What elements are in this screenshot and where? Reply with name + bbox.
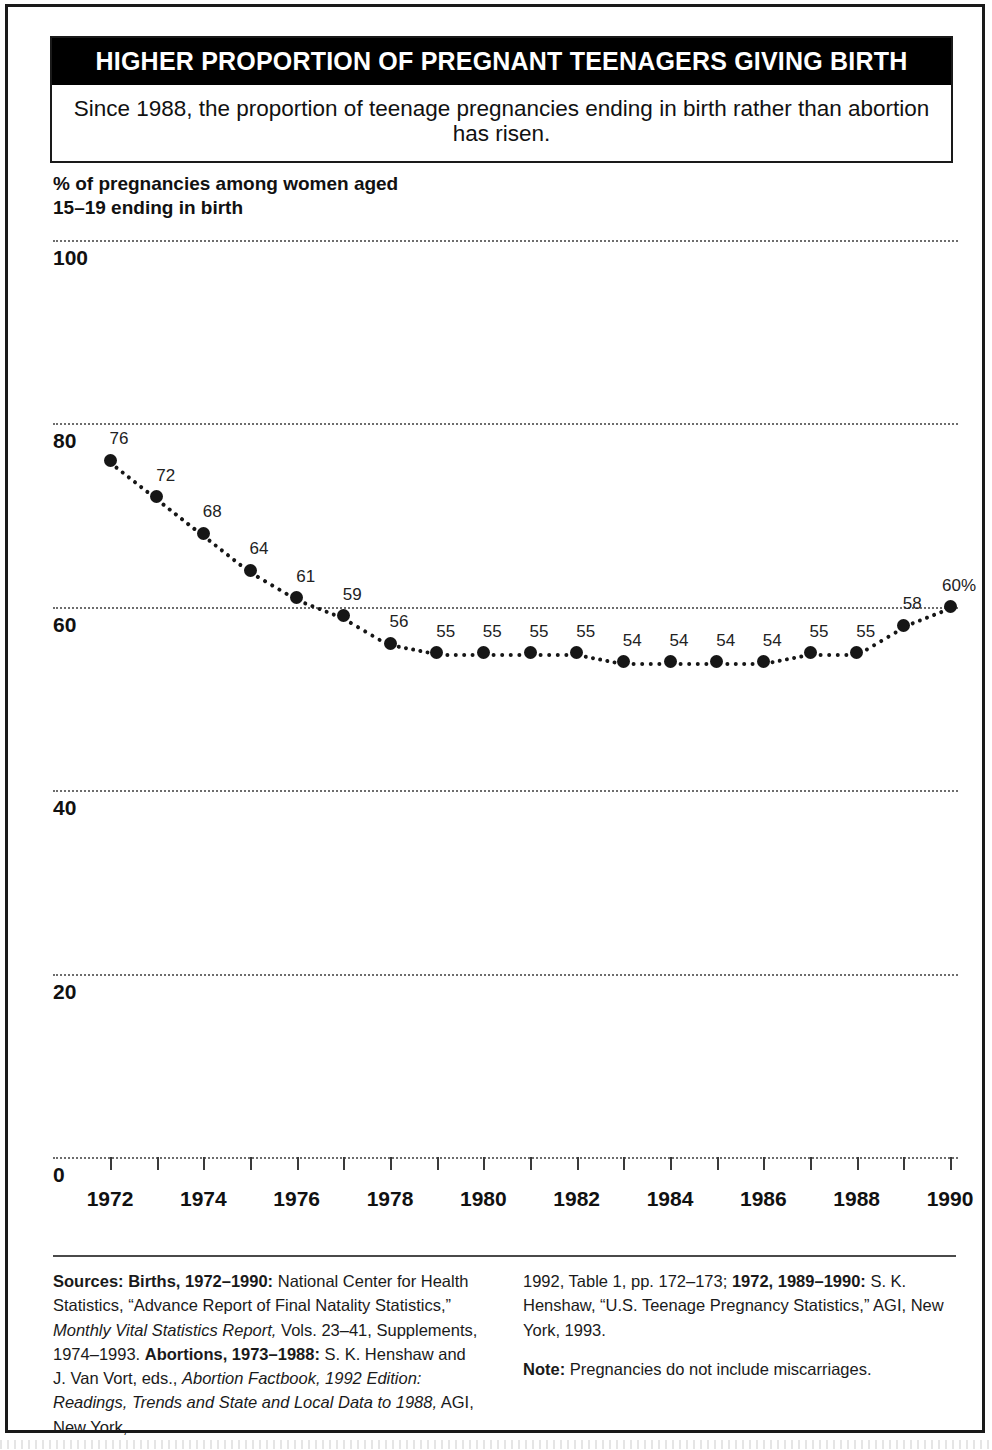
footnote-column-left: Sources: Births, 1972–1990: National Cen… (53, 1269, 483, 1450)
x-axis-tick-label: 1978 (345, 1187, 435, 1211)
data-line-segment (623, 662, 670, 666)
gridline-80 (53, 423, 958, 425)
footnotes: Sources: Births, 1972–1990: National Cen… (53, 1269, 956, 1450)
y-axis-tick-label: 40 (53, 796, 95, 820)
x-axis-tick (950, 1157, 952, 1170)
data-point-marker (197, 527, 210, 540)
x-axis-tick-label: 1986 (718, 1187, 808, 1211)
x-axis-tick (157, 1157, 159, 1170)
x-axis-tick (390, 1157, 392, 1170)
data-point-label: 58 (877, 594, 947, 614)
x-axis-tick-label: 1976 (252, 1187, 342, 1211)
x-axis-tick-label: 1990 (905, 1187, 992, 1211)
sources-note-continued: 1992, Table 1, pp. 172–173; 1972, 1989–1… (523, 1269, 953, 1342)
scan-artifact (0, 1440, 992, 1449)
general-note: Note: Pregnancies do not include miscarr… (523, 1357, 953, 1381)
data-point-marker (104, 454, 117, 467)
figure-title: HIGHER PROPORTION OF PREGNANT TEENAGERS … (52, 38, 951, 85)
data-point-marker (477, 646, 490, 659)
data-point-label: 60% (924, 576, 992, 596)
x-axis-tick-label: 1984 (625, 1187, 715, 1211)
x-axis-tick (577, 1157, 579, 1170)
data-point-marker (710, 655, 723, 668)
y-axis-tick-label: 60 (53, 613, 95, 637)
data-point-label: 64 (224, 539, 294, 559)
data-point-marker (430, 646, 443, 659)
gridline-100 (53, 240, 958, 242)
x-axis-tick-label: 1974 (158, 1187, 248, 1211)
gridline-0 (53, 1157, 958, 1159)
x-axis-tick-label: 1982 (532, 1187, 622, 1211)
chart-plot-area: 1008060402001972197419761978198019821984… (53, 232, 958, 1167)
footnote-column-right: 1992, Table 1, pp. 172–173; 1972, 1989–1… (523, 1269, 953, 1450)
data-line-segment (483, 653, 530, 657)
data-point-label: 61 (271, 567, 341, 587)
x-axis-tick (203, 1157, 205, 1170)
figure-subtitle: Since 1988, the proportion of teenage pr… (52, 85, 951, 161)
data-point-marker (804, 646, 817, 659)
x-axis-tick (717, 1157, 719, 1170)
sources-note: Sources: Births, 1972–1990: National Cen… (53, 1269, 483, 1439)
gridline-40 (53, 790, 958, 792)
x-axis-tick-label: 1980 (438, 1187, 528, 1211)
data-point-marker (524, 646, 537, 659)
x-axis-tick (903, 1157, 905, 1170)
x-axis-tick (250, 1157, 252, 1170)
x-axis-tick (437, 1157, 439, 1170)
data-point-marker (850, 646, 863, 659)
gridline-20 (53, 974, 958, 976)
x-axis-tick-label: 1988 (812, 1187, 902, 1211)
x-axis-tick (670, 1157, 672, 1170)
data-point-marker (664, 655, 677, 668)
data-point-label: 59 (317, 585, 387, 605)
x-axis-tick (530, 1157, 532, 1170)
data-point-label: 68 (177, 502, 247, 522)
x-axis-tick (110, 1157, 112, 1170)
y-axis-caption-line-2: 15–19 ending in birth (53, 196, 653, 220)
title-block: HIGHER PROPORTION OF PREGNANT TEENAGERS … (50, 36, 953, 163)
x-axis-tick (483, 1157, 485, 1170)
data-point-marker (617, 655, 630, 668)
figure-frame: HIGHER PROPORTION OF PREGNANT TEENAGERS … (5, 4, 985, 1433)
data-point-label: 76 (84, 429, 154, 449)
data-point-marker (244, 564, 257, 577)
data-point-marker (897, 619, 910, 632)
y-axis-tick-label: 20 (53, 980, 95, 1004)
x-axis-tick (810, 1157, 812, 1170)
x-axis-tick (343, 1157, 345, 1170)
data-point-marker (944, 600, 957, 613)
x-axis-tick (297, 1157, 299, 1170)
data-point-label: 55 (831, 622, 901, 642)
x-axis-tick (857, 1157, 859, 1170)
y-axis-caption-line-1: % of pregnancies among women aged (53, 172, 653, 196)
x-axis-tick-label: 1972 (65, 1187, 155, 1211)
footnote-divider (53, 1255, 956, 1257)
y-axis-tick-label: 100 (53, 246, 95, 270)
y-axis-caption: % of pregnancies among women aged 15–19 … (53, 172, 653, 221)
gridline-60 (53, 607, 958, 609)
data-point-marker (384, 637, 397, 650)
x-axis-tick (623, 1157, 625, 1170)
data-point-label: 72 (131, 466, 201, 486)
data-point-marker (757, 655, 770, 668)
y-axis-tick-label: 0 (53, 1163, 95, 1187)
x-axis-tick (763, 1157, 765, 1170)
